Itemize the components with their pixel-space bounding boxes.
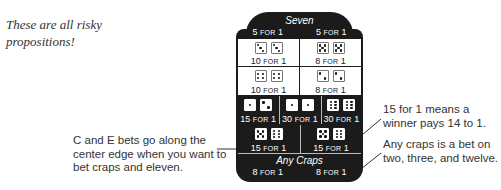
dice-pair	[255, 42, 283, 54]
any-craps-odds-left: 8 FOR 1	[252, 167, 283, 177]
bet-cell[interactable]: 15 FOR 1	[238, 96, 278, 124]
dice-pair	[317, 70, 345, 83]
die-5-icon	[255, 128, 267, 140]
die-1-icon	[302, 99, 314, 111]
c-and-e-callout: C and E bets go along the center edge wh…	[73, 134, 233, 175]
payout-label: 30 FOR 1	[323, 114, 359, 124]
payout-label: 8 FOR 1	[315, 85, 346, 95]
bet-cell[interactable]: 15 FOR 1	[300, 125, 361, 153]
bet-cell[interactable]: 10 FOR 1	[238, 67, 299, 95]
bet-cell[interactable]: 8 FOR 1	[300, 39, 361, 66]
die-6-icon	[271, 128, 283, 140]
any-craps-label[interactable]: Any Craps	[236, 155, 363, 166]
dice-pair	[327, 99, 355, 112]
die-6-icon	[327, 99, 339, 111]
seven-odds-left: 5 FOR 1	[252, 27, 283, 37]
die-1-icon	[244, 99, 256, 111]
die-5-icon	[317, 128, 329, 140]
payout-label: 10 FOR 1	[251, 85, 287, 95]
dice-pair	[317, 42, 345, 54]
dice-pair	[317, 128, 345, 141]
any-craps-odds: 8 FOR 1 8 FOR 1	[236, 167, 363, 177]
seven-odds-right: 5 FOR 1	[316, 27, 347, 37]
bet-cell[interactable]: 30 FOR 1	[279, 96, 319, 124]
die-2-icon	[260, 99, 272, 111]
die-2-icon	[317, 70, 329, 82]
risky-propositions-note: These are all risky propositions!	[6, 16, 156, 50]
dice-pair	[244, 99, 272, 112]
die-6-icon	[343, 99, 355, 111]
payout-label: 15 FOR 1	[251, 143, 287, 153]
dice-pair	[255, 70, 283, 83]
dice-pair	[255, 128, 283, 141]
die-5-icon	[317, 42, 329, 54]
bet-cell[interactable]: 30 FOR 1	[321, 96, 361, 124]
seven-odds: 5 FOR 1 5 FOR 1	[236, 27, 363, 37]
seven-label[interactable]: Seven	[236, 15, 363, 26]
die-4-icon	[271, 70, 283, 82]
payout-label: 15 FOR 1	[313, 143, 349, 153]
proposition-bets-board: Seven 5 FOR 1 5 FOR 1 10 FOR 18 FOR 110 …	[236, 12, 363, 182]
die-1-icon	[286, 99, 298, 111]
bet-cell[interactable]: 8 FOR 1	[300, 67, 361, 95]
divider	[238, 153, 361, 154]
die-2-icon	[333, 70, 345, 82]
payout-label: 8 FOR 1	[315, 56, 346, 66]
payout-callout: 15 for 1 means a winner pays 14 to 1.	[383, 103, 501, 130]
any-craps-callout: Any craps is a bet on two, three, and tw…	[383, 138, 501, 165]
bet-cell[interactable]: 10 FOR 1	[238, 39, 299, 66]
payout-label: 15 FOR 1	[240, 114, 276, 124]
die-3-icon	[255, 42, 267, 54]
payout-label: 10 FOR 1	[251, 56, 287, 66]
dice-pair	[286, 99, 314, 112]
bet-cell[interactable]: 15 FOR 1	[238, 125, 299, 153]
die-5-icon	[333, 42, 345, 54]
die-3-icon	[271, 42, 283, 54]
die-6-icon	[333, 128, 345, 140]
die-4-icon	[255, 70, 267, 82]
payout-label: 30 FOR 1	[282, 114, 318, 124]
any-craps-odds-right: 8 FOR 1	[316, 167, 347, 177]
